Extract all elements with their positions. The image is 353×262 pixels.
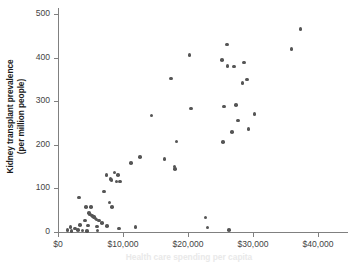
scatter-point bbox=[118, 180, 122, 184]
x-axis-tick bbox=[188, 233, 189, 237]
scatter-point bbox=[188, 53, 192, 57]
scatter-point bbox=[83, 219, 87, 223]
scatter-point bbox=[108, 201, 112, 205]
x-axis-tick bbox=[253, 233, 254, 237]
scatter-point bbox=[77, 196, 81, 200]
scatter-point bbox=[236, 119, 240, 123]
y-axis-tick-label: 500 bbox=[20, 9, 50, 18]
scatter-point bbox=[89, 205, 93, 209]
scatter-point bbox=[105, 173, 109, 177]
y-axis-tick-label: 400 bbox=[20, 53, 50, 62]
scatter-point bbox=[117, 227, 121, 231]
scatter-point bbox=[230, 130, 234, 134]
y-axis-line bbox=[58, 8, 59, 233]
scatter-point bbox=[129, 161, 133, 165]
x-axis-tick-label: $40,000 bbox=[291, 240, 345, 249]
y-axis-tick bbox=[54, 58, 58, 59]
scatter-point bbox=[110, 178, 114, 182]
scatter-point bbox=[66, 228, 70, 232]
scatter-point bbox=[69, 225, 73, 229]
scatter-point bbox=[227, 228, 231, 232]
x-axis-tick bbox=[58, 233, 59, 237]
scatter-point bbox=[299, 27, 303, 31]
y-axis-tick-label: 300 bbox=[20, 96, 50, 105]
x-axis-tick bbox=[123, 233, 124, 237]
scatter-point bbox=[138, 155, 142, 159]
x-axis-line bbox=[58, 232, 348, 233]
y-axis-tick-label: 0 bbox=[20, 227, 50, 236]
scatter-point bbox=[105, 224, 109, 228]
y-axis-tick-label: 200 bbox=[20, 140, 50, 149]
scatter-point bbox=[220, 58, 224, 62]
scatter-point bbox=[110, 205, 114, 209]
scatter-point bbox=[206, 226, 210, 230]
x-axis-tick bbox=[318, 233, 319, 237]
x-axis-title: Health care spending per capita bbox=[58, 252, 320, 262]
scatter-point bbox=[222, 105, 226, 109]
scatter-point bbox=[226, 64, 230, 68]
scatter-point bbox=[189, 107, 193, 111]
scatter-point bbox=[234, 103, 238, 107]
scatter-point bbox=[290, 47, 294, 51]
y-axis-tick bbox=[54, 101, 58, 102]
x-axis-tick-label: $30,000 bbox=[226, 240, 280, 249]
y-axis-tick bbox=[54, 188, 58, 189]
scatter-point bbox=[169, 77, 173, 81]
scatter-point bbox=[225, 43, 229, 47]
x-axis-tick-label: $10,000 bbox=[96, 240, 150, 249]
scatter-point bbox=[204, 216, 208, 220]
scatter-point bbox=[221, 140, 225, 144]
scatter-point bbox=[84, 205, 88, 209]
scatter-point bbox=[175, 140, 179, 144]
scatter-point bbox=[70, 229, 74, 233]
x-axis-tick-label: $0 bbox=[31, 240, 85, 249]
scatter-point bbox=[150, 114, 154, 118]
y-axis-tick-label: 100 bbox=[20, 183, 50, 192]
scatter-point bbox=[163, 157, 167, 161]
scatter-point bbox=[76, 228, 80, 232]
x-axis-tick-label: $20,000 bbox=[161, 240, 215, 249]
scatter-point bbox=[173, 167, 177, 171]
scatter-point bbox=[95, 225, 99, 229]
scatter-point bbox=[241, 81, 245, 85]
scatter-point bbox=[102, 190, 106, 194]
y-axis-tick bbox=[54, 14, 58, 15]
scatter-point bbox=[100, 221, 104, 225]
scatter-point bbox=[78, 223, 82, 227]
scatter-point bbox=[247, 127, 251, 131]
scatter-point bbox=[232, 65, 236, 69]
y-axis-tick bbox=[54, 145, 58, 146]
scatter-point bbox=[242, 61, 246, 65]
scatter-point bbox=[134, 225, 138, 229]
scatter-point bbox=[85, 229, 89, 233]
scatter-point bbox=[245, 78, 249, 82]
scatter-point bbox=[253, 112, 257, 116]
scatter-point bbox=[86, 224, 90, 228]
scatter-point bbox=[116, 173, 120, 177]
